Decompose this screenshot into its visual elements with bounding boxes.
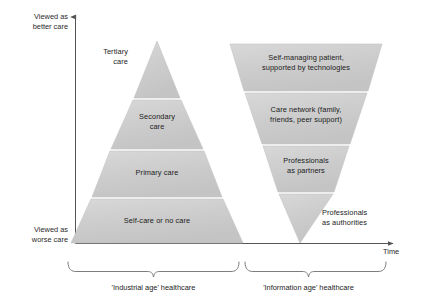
- brace-label-information-age: 'Information age' healthcare: [236, 283, 381, 292]
- inverted-label-self-managing-patient: Self-managing patient, supported by tech…: [241, 53, 371, 72]
- pyramid-label-primary: Primary care: [117, 168, 197, 178]
- inverted-label-professionals-as-partners: Professionals as partners: [262, 156, 350, 175]
- brace-industrial-age: [68, 262, 239, 277]
- x-axis-label: Time: [383, 247, 399, 256]
- pyramid-label-selfcare: Self-care or no care: [102, 216, 212, 226]
- inverted-label-care-network: Care network (family, friends, peer supp…: [248, 105, 364, 124]
- y-axis-top-label: Viewed as better care: [2, 12, 68, 32]
- y-axis-bottom-label: Viewed as worse care: [2, 225, 68, 245]
- diagram-graphics: [0, 0, 427, 307]
- pyramid-layer-tertiary: [134, 41, 180, 98]
- inverted-label-professionals-as-authorities: Professionals as authorities: [322, 208, 412, 227]
- brace-information-age: [245, 262, 386, 277]
- industrial-age-pyramid: [71, 41, 243, 243]
- brace-label-industrial-age: 'Industrial age' healthcare: [83, 283, 224, 292]
- pyramid-label-tertiary: Tertiary care: [75, 47, 128, 66]
- figure-canvas: Viewed as better care Viewed as worse ca…: [0, 0, 427, 307]
- pyramid-label-secondary: Secondary care: [122, 112, 192, 131]
